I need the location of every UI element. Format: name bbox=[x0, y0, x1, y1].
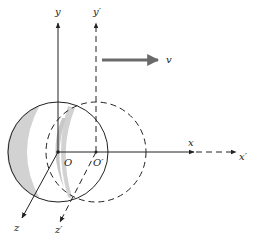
y-prime-axis-label: y′ bbox=[92, 6, 102, 17]
z-axis-label: z bbox=[13, 222, 20, 233]
z-prime-axis-label: z′ bbox=[54, 224, 63, 235]
x-prime-axis-label: x′ bbox=[239, 151, 248, 162]
origin-prime-dot bbox=[95, 151, 98, 154]
origin-prime-label: O′ bbox=[93, 157, 104, 168]
relativity-sphere-diagram: y y′ x x′ z z′ O O′ v bbox=[0, 0, 257, 239]
origin-dot bbox=[56, 150, 60, 154]
y-axis-label: y bbox=[54, 6, 61, 17]
x-axis-label: x bbox=[188, 137, 194, 148]
velocity-label: v bbox=[166, 54, 172, 65]
origin-label: O bbox=[64, 157, 72, 168]
solid-sphere-shading bbox=[7, 105, 40, 199]
